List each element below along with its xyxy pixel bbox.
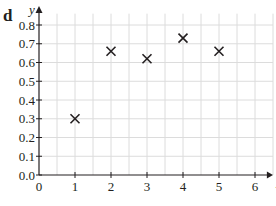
- x-tick-label: 4: [180, 179, 187, 194]
- y-tick-label: 0.3: [19, 111, 35, 126]
- y-axis-label: y: [27, 2, 35, 17]
- y-tick-label: 0.0: [19, 168, 35, 183]
- y-tick-label: 0.1: [19, 149, 35, 164]
- y-tick-label: 0.5: [19, 74, 35, 89]
- x-tick-label: 3: [144, 179, 151, 194]
- y-tick-label: 0.7: [19, 36, 36, 51]
- x-tick-label: 6: [252, 179, 259, 194]
- x-tick-label: 0: [36, 179, 43, 194]
- x-axis-label: x: [275, 176, 276, 191]
- y-tick-label: 0.6: [19, 55, 36, 70]
- x-axis-arrow-icon: [267, 172, 273, 179]
- x-tick-label: 1: [72, 179, 79, 194]
- y-tick-label: 0.4: [19, 93, 36, 108]
- scatter-plot: 01234560.00.10.20.30.40.50.60.70.8xy: [0, 0, 276, 206]
- y-tick-label: 0.8: [19, 18, 35, 33]
- x-tick-label: 5: [216, 179, 223, 194]
- y-tick-label: 0.2: [19, 130, 35, 145]
- x-tick-label: 2: [108, 179, 115, 194]
- y-axis-arrow-icon: [36, 6, 43, 13]
